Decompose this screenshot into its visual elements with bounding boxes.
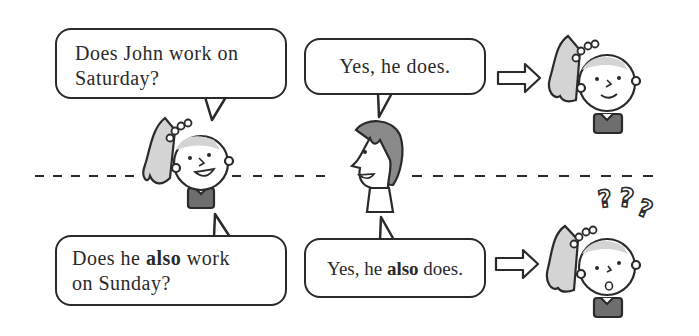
question-mark-icon: ? [596,184,614,214]
bubble-tail-bottom-mid [380,217,394,240]
question-mark-icon: ? [617,182,636,214]
arrow-right-icon-bottom [496,250,538,278]
question-marks: ? ? ? [598,185,678,235]
bubble-line: Saturday? [75,66,285,91]
speech-bubble-question-1: Does John work on Saturday? [55,28,287,99]
boy-speaking [352,121,402,212]
bubble-tail-top-left [205,97,226,120]
speech-bubble-answer-2: Yes, he also does. [304,238,486,298]
speech-bubble-question-2: Does he also work on Sunday? [55,235,287,306]
question-mark-icon: ? [633,193,656,224]
text-segment: work [181,247,230,269]
text-segment: Yes, he [327,258,387,279]
bold-emphasis: also [146,247,181,269]
bubble-text: Yes, he does. [339,55,450,77]
girl-speaking [143,118,233,208]
text-segment: does. [419,258,463,279]
bubble-tail-bottom-left [214,214,230,237]
arrow-right-icon-top [498,64,540,92]
text-segment: Does he [72,247,146,269]
bold-emphasis: also [387,258,419,279]
girl-confused [547,226,640,317]
girl-smiling [549,36,640,133]
bubble-tail-top-mid [378,93,392,117]
speech-bubble-answer-1: Yes, he does. [304,38,486,95]
bubble-line: Does John work on [75,41,285,66]
bubble-line: on Sunday? [72,271,285,296]
bubble-line: Does he also work [72,246,285,271]
